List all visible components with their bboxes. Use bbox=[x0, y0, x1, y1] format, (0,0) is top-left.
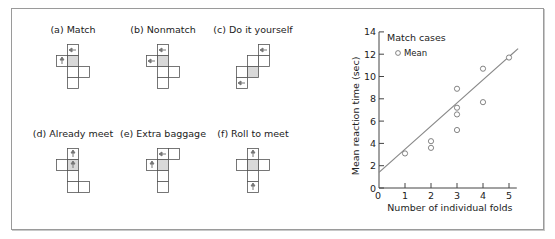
legend-marker-icon bbox=[396, 51, 401, 56]
y-tick-label: 14 bbox=[364, 26, 376, 37]
data-point bbox=[454, 127, 459, 132]
x-tick-label: 3 bbox=[454, 190, 460, 201]
x-tick-label: 1 bbox=[402, 190, 408, 201]
legend-entry-label: Mean bbox=[404, 48, 427, 58]
y-tick-label: 10 bbox=[364, 71, 376, 82]
data-point bbox=[506, 55, 511, 60]
data-point bbox=[480, 100, 485, 105]
data-point bbox=[428, 139, 433, 144]
x-tick-label: 5 bbox=[506, 190, 512, 201]
regression-line bbox=[379, 49, 518, 173]
data-point bbox=[454, 86, 459, 91]
x-tick-label: 0 bbox=[375, 190, 381, 201]
y-tick-label: 4 bbox=[370, 138, 376, 149]
y-tick-label: 8 bbox=[370, 93, 376, 104]
data-point bbox=[428, 145, 433, 150]
y-axis-label: Mean reaction time (sec) bbox=[350, 57, 361, 176]
x-axis-label: Number of individual folds bbox=[387, 202, 512, 213]
data-point bbox=[454, 112, 459, 117]
x-tick-label: 4 bbox=[480, 190, 486, 201]
legend-title: Match cases bbox=[387, 32, 446, 43]
y-tick-label: 6 bbox=[370, 116, 376, 127]
x-tick-label: 2 bbox=[428, 190, 434, 201]
y-tick-label: 2 bbox=[370, 160, 376, 171]
y-tick-label: 12 bbox=[364, 49, 376, 60]
data-point bbox=[480, 66, 485, 71]
data-point bbox=[454, 105, 459, 110]
data-point bbox=[402, 151, 407, 156]
reaction-time-scatter-chart: 02468101214012345Number of individual fo… bbox=[0, 0, 555, 239]
